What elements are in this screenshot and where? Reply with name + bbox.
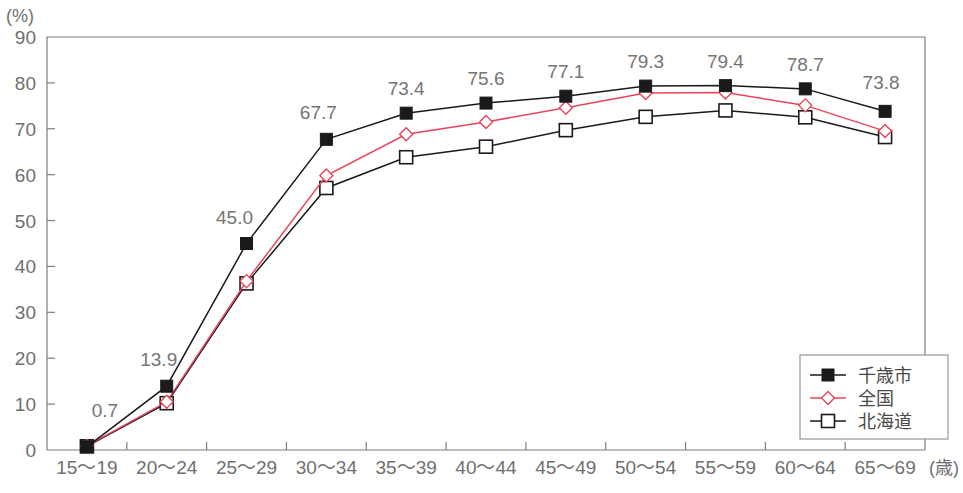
y-tick-label: 40 <box>15 256 36 277</box>
y-tick-label: 60 <box>15 165 36 186</box>
y-tick-label: 80 <box>15 73 36 94</box>
x-tick-label-0: 15～19 <box>56 457 117 478</box>
y-tick-label: 20 <box>15 348 36 369</box>
data-label-10: 73.8 <box>863 72 900 93</box>
y-tick-label: 70 <box>15 119 36 140</box>
series-line-2 <box>87 110 885 446</box>
data-label-5: 75.6 <box>468 68 505 89</box>
x-tick-label-9: 60～64 <box>775 457 837 478</box>
marker-point <box>400 128 413 141</box>
marker-point <box>719 104 732 117</box>
series-0 <box>81 80 891 453</box>
marker-point <box>400 107 412 119</box>
marker-point <box>480 115 493 128</box>
x-tick-label-2: 25～29 <box>216 457 277 478</box>
y-tick-label: 0 <box>25 440 36 461</box>
marker-point <box>640 80 652 92</box>
x-tick-label-5: 40～44 <box>455 457 517 478</box>
series-group <box>80 80 891 453</box>
x-tick-label-4: 35～39 <box>376 457 437 478</box>
marker-point <box>799 99 812 112</box>
y-tick-label: 50 <box>15 211 36 232</box>
line-chart: 0102030405060708090(%)15～1920～2425～2930～… <box>0 0 963 493</box>
x-axis-suffix-label: (歳) <box>929 458 959 478</box>
y-tick-label: 30 <box>15 302 36 323</box>
marker-point <box>320 133 332 145</box>
data-label-1: 13.9 <box>140 349 177 370</box>
legend-marker-open-square <box>822 415 835 428</box>
data-label-4: 73.4 <box>388 78 425 99</box>
x-tick-label-8: 55～59 <box>695 457 756 478</box>
marker-point <box>161 380 173 392</box>
data-label-2: 45.0 <box>216 207 253 228</box>
data-label-6: 77.1 <box>547 61 584 82</box>
data-label-0: 0.7 <box>92 400 118 421</box>
x-tick-label-6: 45～49 <box>535 457 596 478</box>
chart-page: 0102030405060708090(%)15～1920～2425～2930～… <box>0 0 963 493</box>
y-tick-label: 10 <box>15 394 36 415</box>
legend-label-0: 千歳市 <box>858 366 912 386</box>
x-tick-label-10: 65～69 <box>854 457 915 478</box>
marker-point <box>879 105 891 117</box>
marker-point <box>639 110 652 123</box>
marker-point <box>320 169 333 182</box>
data-label-8: 79.4 <box>707 51 744 72</box>
marker-point <box>559 101 572 114</box>
legend-label-2: 北海道 <box>858 412 912 432</box>
x-tick-label-3: 30～34 <box>296 457 358 478</box>
x-tick-label-1: 20～24 <box>136 457 198 478</box>
y-axis-unit-label: (%) <box>6 6 34 26</box>
marker-point <box>560 90 572 102</box>
chart-legend: 千歳市全国北海道 <box>800 355 948 439</box>
data-labels-group: 0.713.945.067.773.475.677.179.379.478.77… <box>92 51 900 421</box>
x-tick-label-7: 50～54 <box>615 457 677 478</box>
marker-point <box>559 124 572 137</box>
marker-point <box>320 181 333 194</box>
data-label-7: 79.3 <box>627 51 664 72</box>
y-tick-label: 90 <box>15 27 36 48</box>
series-2 <box>80 104 891 453</box>
data-label-9: 78.7 <box>787 54 824 75</box>
marker-point <box>480 97 492 109</box>
marker-point <box>480 140 493 153</box>
marker-point <box>241 238 253 250</box>
marker-point <box>81 441 93 453</box>
legend-marker-filled-square <box>822 369 834 381</box>
marker-point <box>799 83 811 95</box>
marker-point <box>400 151 413 164</box>
data-label-3: 67.7 <box>300 102 337 123</box>
legend-label-1: 全国 <box>858 389 894 409</box>
marker-point <box>719 80 731 92</box>
